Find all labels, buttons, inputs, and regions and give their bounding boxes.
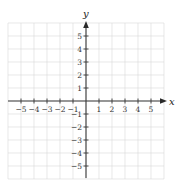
y-axis-label: y [82,8,89,19]
y-tick-label: −2 [71,123,82,132]
y-tick-label: 5 [77,32,82,41]
y-tick-label: −5 [71,162,82,171]
y-tick-label: 4 [77,45,82,54]
x-axis-arrow-icon [160,98,167,104]
y-axis-arrow-icon [83,21,89,28]
x-tick-label: −3 [41,105,52,114]
x-tick-label: 1 [97,105,102,114]
y-tick-label: −1 [71,110,82,119]
y-tick-label: 3 [77,58,82,67]
x-axis-label: x [169,96,175,107]
y-tick-label: 2 [77,71,82,80]
axes [8,21,167,178]
x-tick-label: 2 [110,105,115,114]
y-tick-label: −4 [71,149,82,158]
x-tick-label: −5 [15,105,26,114]
coordinate-plane: −5−4−3−2−112345−5−4−3−2−112345 x y [0,0,179,186]
x-tick-label: −4 [28,105,39,114]
x-tick-label: 3 [123,105,128,114]
x-tick-label: −2 [54,105,65,114]
y-tick-label: −3 [71,136,82,145]
x-tick-label: 5 [149,105,154,114]
x-tick-label: 4 [136,105,141,114]
y-tick-label: 1 [77,84,82,93]
